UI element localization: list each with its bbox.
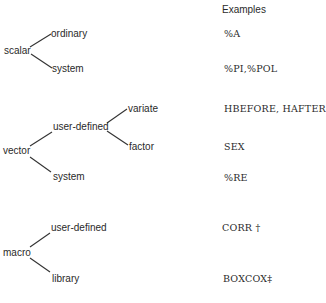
edge-userdefined-variate: [107, 109, 127, 123]
node-scalar-ordinary: ordinary: [51, 28, 87, 40]
edge-scalar-system: [31, 54, 52, 68]
node-scalar-system: system: [52, 63, 84, 75]
edge-vector-system: [30, 157, 51, 172]
edge-userdefined-factor: [107, 131, 128, 145]
example-scalar-ordinary: %A: [224, 28, 240, 40]
node-macro: macro: [3, 247, 31, 259]
node-vector-system: system: [53, 171, 85, 183]
edge-scalar-ordinary: [30, 34, 51, 47]
example-vector-system: %RE: [224, 172, 248, 184]
edge-vector-userdefined: [30, 132, 52, 146]
example-scalar-system: %PI,%POL: [224, 63, 277, 75]
node-vector-user-defined: user-defined: [53, 121, 109, 133]
node-macro-library: library: [52, 273, 79, 285]
examples-header: Examples: [222, 4, 266, 16]
edge-macro-library: [30, 258, 50, 272]
example-vector-variate: HBEFORE, HAFTER: [224, 103, 326, 115]
example-vector-factor: SEX: [224, 141, 245, 153]
edge-macro-userdefined: [30, 233, 50, 247]
node-vector-factor: factor: [129, 141, 154, 153]
node-vector: vector: [3, 145, 30, 157]
node-macro-user-defined: user-defined: [51, 222, 107, 234]
example-macro-user-defined: CORR †: [222, 222, 260, 234]
node-vector-variate: variate: [128, 103, 158, 115]
node-scalar: scalar: [4, 45, 31, 57]
example-macro-library: BOXCOX‡: [223, 273, 272, 285]
